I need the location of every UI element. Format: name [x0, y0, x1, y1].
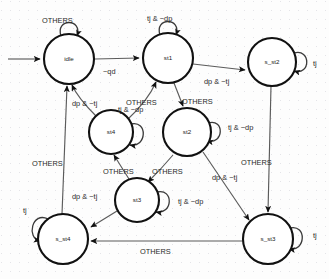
state-node-st1[interactable]: st1	[143, 33, 193, 83]
edge-st1-to-s_st2	[193, 64, 245, 70]
state-label-s_st4: s_st4	[56, 235, 71, 242]
state-node-s_st3[interactable]: s_st3	[243, 214, 293, 264]
state-label-s_st2: s_st2	[265, 58, 280, 65]
edge-st3-to-s_st4	[91, 211, 117, 227]
loop-label-idle: OTHERS	[42, 16, 73, 25]
state-diagram-canvas: idle st1 s_st2 st4 st2 st3 s_st4 s_st3	[0, 0, 329, 279]
edge-label-st2-to-s_st3: dp & ~tj	[212, 173, 238, 182]
state-node-s_st2[interactable]: s_st2	[248, 38, 296, 86]
state-node-idle[interactable]: idle	[44, 34, 94, 84]
state-node-st2[interactable]: st2	[163, 108, 211, 156]
edge-label-st4-to-st1: OTHERS	[126, 98, 157, 107]
edge-idle-to-st1	[95, 58, 139, 59]
state-diagram-svg: idle st1 s_st2 st4 st2 st3 s_st4 s_st3	[0, 0, 329, 279]
edge-s_st2-to-s_st3	[268, 86, 271, 212]
edge-label-s_st4-to-idle: OTHERS	[32, 159, 63, 168]
edge-label-s_st3-to-s_st4: OTHERS	[140, 247, 171, 256]
edge-label-st3-to-s_st4: dp & ~tj	[72, 192, 98, 201]
state-label-st2: st2	[183, 128, 192, 135]
loop-label-s_st2: tj	[313, 59, 317, 68]
state-label-s_st3: s_st3	[261, 235, 276, 242]
edge-label-s_st2-to-s_st3: OTHERS	[241, 158, 272, 167]
state-node-st3[interactable]: st3	[115, 178, 159, 222]
loop-label-st1: tj & ~dp	[147, 14, 172, 23]
state-label-st1: st1	[164, 54, 173, 61]
edge-label-st1-to-s_st2: dp & ~tj	[204, 77, 230, 86]
edge-s_st4-to-idle	[62, 86, 67, 214]
loop-label-st3: tj & ~dp	[178, 197, 203, 206]
edge-label-st4-to-idle: dp & ~tj	[72, 99, 98, 108]
state-label-st3: st3	[133, 196, 142, 203]
state-node-s_st4[interactable]: s_st4	[38, 214, 88, 264]
edge-label-st1-to-st2: OTHERS	[182, 97, 213, 106]
state-label-st4: st4	[107, 128, 116, 135]
loop-label-s_st3: tj	[313, 231, 317, 240]
loop-label-s_st4: tj	[23, 206, 27, 215]
edge-label-idle-to-st1: ~qd	[103, 67, 116, 76]
state-label-idle: idle	[64, 55, 74, 62]
loop-label-st2: tj & ~dp	[228, 123, 253, 132]
state-node-st4[interactable]: st4	[89, 110, 133, 154]
edge-label-st3-to-st4: OTHERS	[103, 167, 134, 176]
edge-label-st2-to-st3: OTHERS	[152, 167, 183, 176]
